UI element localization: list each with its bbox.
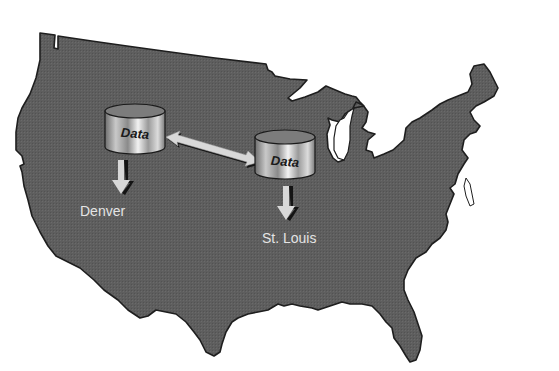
chesapeake-bay: [464, 178, 474, 206]
us-land-shape: [16, 33, 498, 362]
database-denver: Data: [105, 104, 165, 154]
city-label-denver: Denver: [80, 203, 125, 219]
database-label: Data: [270, 153, 299, 170]
city-label-stlouis: St. Louis: [262, 230, 316, 246]
us-map-diagram: Data Data Denver St. Louis: [0, 0, 559, 371]
database-stlouis: Data: [255, 130, 315, 179]
database-label: Data: [120, 125, 149, 142]
database-cylinder-top: [105, 104, 165, 118]
database-cylinder-top: [255, 130, 315, 144]
us-map: [16, 33, 498, 362]
